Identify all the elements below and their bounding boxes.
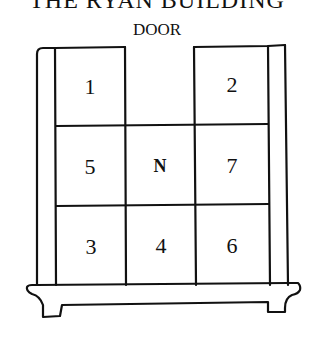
room-3-label: 3	[61, 235, 121, 259]
outer-right-wall	[285, 45, 288, 285]
room-2-top	[194, 45, 285, 47]
room-2-label: 2	[202, 73, 262, 97]
room-1-label: 1	[60, 75, 120, 99]
room-7-label: 7	[202, 154, 262, 178]
room-4-label: 4	[131, 234, 191, 258]
room-6-label: 6	[202, 234, 262, 258]
outer-left-wall	[37, 48, 55, 285]
room-5-label: 5	[60, 155, 120, 179]
column-divider-left	[125, 47, 126, 285]
building-base	[27, 283, 300, 317]
inner-left-wall	[55, 48, 56, 285]
room-n-label: N	[130, 154, 190, 178]
room-1-top	[55, 47, 125, 48]
row-divider-2	[56, 204, 269, 206]
row-divider-1	[56, 124, 268, 126]
column-divider-right	[194, 47, 196, 285]
inner-right-wall	[268, 46, 270, 285]
